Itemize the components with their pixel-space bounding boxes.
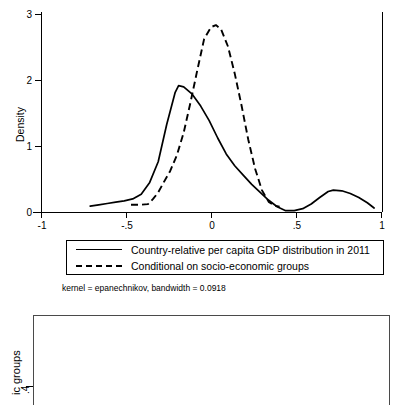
legend-item-solid: Country-relative per capita GDP distribu… [73, 242, 370, 258]
legend: Country-relative per capita GDP distribu… [66, 240, 384, 275]
legend-item-dashed: Conditional on socio-economic groups [73, 258, 309, 274]
second-panel-y-tick-mark [26, 386, 33, 387]
series-line-dashed [131, 25, 280, 207]
y-axis-title: Density [14, 107, 26, 142]
x-tick-label-05: .5 [282, 220, 312, 231]
y-tick-label-0: 0 [18, 207, 32, 218]
second-panel-frame [33, 315, 390, 405]
y-tick-label-2: 2 [18, 75, 32, 86]
legend-label-dashed: Conditional on socio-economic groups [131, 260, 309, 272]
legend-key-dashed-line-icon [73, 260, 125, 272]
kernel-bandwidth-note: kernel = epanechnikov, bandwidth = 0.091… [62, 283, 226, 293]
legend-key-solid-line-icon [73, 244, 125, 256]
x-tick-label-0: 0 [197, 220, 227, 231]
legend-label-solid: Country-relative per capita GDP distribu… [131, 244, 370, 256]
x-tick-label-neg1: -1 [27, 220, 57, 231]
x-tick-label-1: 1 [367, 220, 393, 231]
y-tick-label-3: 3 [18, 9, 32, 20]
x-tick-label-neg05: -.5 [112, 220, 142, 231]
series-line-solid [90, 86, 374, 211]
y-tick-label-1: 1 [18, 141, 32, 152]
